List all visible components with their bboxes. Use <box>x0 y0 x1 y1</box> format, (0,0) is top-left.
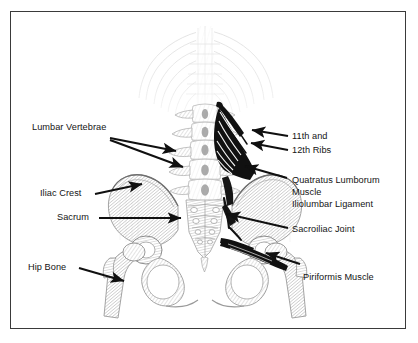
leader-rib-11 <box>252 130 288 136</box>
label-iliolumbar-ligament: Iliolumbar Ligament <box>292 199 373 211</box>
screenshot-root: Lumbar Vertebrae Iliac Crest Sacrum Hip … <box>0 0 418 343</box>
leader-sacroiliac-joint <box>227 214 288 228</box>
leader-lumbar-vertebrae-lower <box>110 140 183 167</box>
leader-piriformis-muscle <box>266 253 300 264</box>
label-hip-bone: Hip Bone <box>28 262 66 274</box>
annotation-arrows <box>0 0 418 343</box>
leader-iliac-crest <box>95 184 142 194</box>
label-piriformis-muscle: Piriformis Muscle <box>303 272 374 284</box>
label-11th-and: 11th and <box>292 131 327 143</box>
label-lumbar-vertebrae: Lumbar Vertebrae <box>32 122 106 134</box>
leader-rib-12 <box>251 143 288 150</box>
label-sacrum: Sacrum <box>57 212 89 224</box>
label-quatratus-muscle: Muscle <box>292 187 321 199</box>
leader-quatratus-lumborum <box>245 166 287 178</box>
label-sacroiliac-joint: Sacroiliac Joint <box>292 224 355 236</box>
label-iliac-crest: Iliac Crest <box>40 188 81 200</box>
label-quatratus-lumborum: Quatratus Lumborum <box>292 175 380 187</box>
label-12th-ribs: 12th Ribs <box>292 145 331 157</box>
leader-hip-bone <box>79 268 124 281</box>
